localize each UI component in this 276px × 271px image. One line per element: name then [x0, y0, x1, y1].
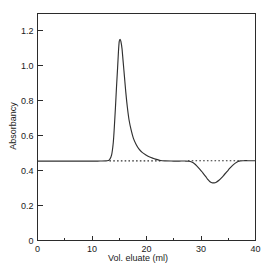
chart-canvas: 010203040 00.20.40.60.81.01.2 Vol. eluat…: [0, 0, 276, 271]
chromatogram-chart: 010203040 00.20.40.60.81.01.2 Vol. eluat…: [0, 0, 276, 271]
x-tick-label-0: 0: [35, 244, 40, 254]
x-tick-label-30: 30: [196, 244, 206, 254]
y-tick-label-1.2: 1.2: [21, 26, 34, 36]
y-axis-title: Absorbancy: [8, 102, 18, 150]
elution-trace-line: [38, 39, 256, 183]
plot-series-group: [38, 39, 256, 183]
y-tick-label-0.8: 0.8: [21, 96, 34, 106]
y-tick-label-0.4: 0.4: [21, 166, 34, 176]
axes-frame: [38, 14, 256, 241]
x-axis-title: Vol. eluate (ml): [108, 253, 168, 263]
x-axis-major-ticks: [38, 236, 256, 241]
y-tick-label-0.2: 0.2: [21, 201, 34, 211]
y-axis-major-ticks: [38, 31, 43, 241]
y-tick-label-0: 0: [28, 236, 33, 246]
x-tick-label-10: 10: [87, 244, 97, 254]
y-axis-tick-labels: 00.20.40.60.81.01.2: [21, 26, 34, 246]
y-tick-label-0.6: 0.6: [21, 131, 34, 141]
x-tick-label-40: 40: [250, 244, 260, 254]
x-tick-label-20: 20: [141, 244, 151, 254]
y-tick-label-1: 1.0: [21, 61, 34, 71]
x-axis-tick-labels: 010203040: [35, 244, 261, 254]
plot-frame: [38, 14, 256, 241]
